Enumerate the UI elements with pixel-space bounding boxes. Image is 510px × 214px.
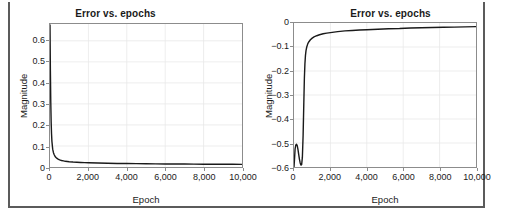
x-tick-mark-left-1 xyxy=(88,168,89,171)
y-tick-right-0: 0 xyxy=(284,17,289,27)
x-axis-label-left: Epoch xyxy=(133,194,160,205)
y-axis-label-right: Magnitude xyxy=(263,74,274,118)
chart-title-right: Error vs. epochs xyxy=(263,8,510,19)
y-axis-label-left: Magnitude xyxy=(18,74,29,118)
x-tick-right-0: 0 xyxy=(290,172,295,182)
plot-area-right xyxy=(293,22,477,168)
y-tick-mark-right-3 xyxy=(290,95,293,96)
x-tick-left-5: 10,000 xyxy=(229,172,257,182)
y-tick-mark-right-0 xyxy=(290,22,293,23)
y-tick-mark-right-2 xyxy=(290,71,293,72)
y-tick-mark-left-6 xyxy=(46,40,49,41)
chart-title-left: Error vs. epochs xyxy=(0,8,243,19)
figure-page: Error vs. epochs 00.10.20.30.40.50.6 02,… xyxy=(0,0,510,214)
y-tick-left-1: 0.1 xyxy=(32,142,45,152)
x-tick-left-0: 0 xyxy=(46,172,51,182)
plot-canvas-right xyxy=(294,23,476,167)
x-tick-mark-right-5 xyxy=(477,168,478,171)
plot-area-left xyxy=(49,23,243,168)
x-tick-left-2: 4,000 xyxy=(115,172,138,182)
chart-panel-left: Error vs. epochs 00.10.20.30.40.50.6 02,… xyxy=(0,0,255,214)
x-axis-label-right: Epoch xyxy=(372,194,399,205)
y-tick-mark-right-1 xyxy=(290,46,293,47)
x-tick-mark-left-4 xyxy=(204,168,205,171)
y-tick-mark-left-5 xyxy=(46,61,49,62)
x-tick-right-5: 10,000 xyxy=(463,172,491,182)
x-tick-mark-left-2 xyxy=(127,168,128,171)
y-tick-right-6: −0.6 xyxy=(271,163,289,173)
y-tick-mark-right-5 xyxy=(290,144,293,145)
y-tick-left-5: 0.5 xyxy=(32,56,45,66)
x-tick-left-4: 8,000 xyxy=(193,172,216,182)
chart-panel-right: Error vs. epochs 0−0.1−0.2−0.3−0.4−0.5−0… xyxy=(255,0,510,214)
x-tick-right-1: 2,000 xyxy=(319,172,342,182)
x-tick-mark-right-1 xyxy=(330,168,331,171)
y-tick-left-6: 0.6 xyxy=(32,35,45,45)
x-tick-right-4: 8,000 xyxy=(429,172,452,182)
y-tick-left-2: 0.2 xyxy=(32,120,45,130)
y-tick-mark-left-4 xyxy=(46,83,49,84)
y-tick-left-0: 0 xyxy=(40,163,45,173)
y-tick-mark-left-1 xyxy=(46,147,49,148)
x-tick-mark-right-2 xyxy=(367,168,368,171)
y-tick-left-3: 0.3 xyxy=(32,99,45,109)
plot-canvas-left xyxy=(50,24,242,167)
y-tick-right-1: −0.1 xyxy=(271,41,289,51)
x-tick-mark-right-4 xyxy=(440,168,441,171)
x-tick-mark-right-0 xyxy=(293,168,294,171)
x-tick-right-3: 6,000 xyxy=(392,172,415,182)
y-tick-mark-left-2 xyxy=(46,125,49,126)
x-tick-left-3: 6,000 xyxy=(154,172,177,182)
y-tick-left-4: 0.4 xyxy=(32,78,45,88)
y-tick-mark-right-4 xyxy=(290,119,293,120)
x-tick-mark-left-5 xyxy=(243,168,244,171)
y-tick-mark-left-3 xyxy=(46,104,49,105)
x-tick-left-1: 2,000 xyxy=(77,172,100,182)
x-tick-mark-left-0 xyxy=(49,168,50,171)
x-tick-mark-right-3 xyxy=(403,168,404,171)
x-tick-mark-left-3 xyxy=(165,168,166,171)
x-tick-right-2: 4,000 xyxy=(355,172,378,182)
y-tick-right-5: −0.5 xyxy=(271,139,289,149)
